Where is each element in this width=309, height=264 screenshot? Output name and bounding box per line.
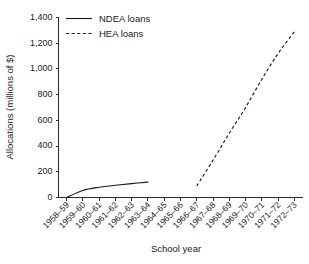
legend-item-hea-loans: HEA loans [66, 28, 144, 39]
x-axis-group: 1958–591959–601960–611961–621962–631963–… [41, 198, 303, 255]
x-axis-ticks [67, 198, 295, 202]
y-axis-tick-label: 200 [37, 166, 52, 176]
series-line-hea-loans [197, 32, 295, 186]
chart-page: 02004006008001,0001,2001,400 Allocations… [0, 0, 309, 264]
y-axis-tick-label: 600 [37, 115, 52, 125]
y-axis-group: 02004006008001,0001,2001,400 Allocations… [4, 12, 59, 202]
y-axis-tick-label: 800 [37, 89, 52, 99]
y-axis-title: Allocations (millions of $) [4, 54, 15, 159]
y-axis-tick-label: 1,200 [30, 38, 53, 48]
allocations-line-chart: 02004006008001,0001,2001,400 Allocations… [0, 0, 309, 264]
x-axis-title: School year [151, 243, 201, 254]
y-axis-tick-label: 1,000 [30, 63, 53, 73]
legend-label-ndea-loans: NDEA loans [99, 13, 150, 24]
y-axis-tick-labels: 02004006008001,0001,2001,400 [30, 12, 53, 202]
series-line-ndea-loans [67, 182, 148, 197]
legend-label-hea-loans: HEA loans [99, 28, 144, 39]
series-group [67, 32, 295, 198]
y-axis-tick-label: 400 [37, 140, 52, 150]
legend-item-ndea-loans: NDEA loans [66, 13, 150, 24]
x-axis-tick-labels: 1958–591959–601960–611961–621962–631963–… [41, 200, 299, 231]
chart-legend: NDEA loans HEA loans [66, 13, 150, 39]
y-axis-tick-label: 1,400 [30, 12, 53, 22]
y-axis-tick-label: 0 [47, 192, 52, 202]
